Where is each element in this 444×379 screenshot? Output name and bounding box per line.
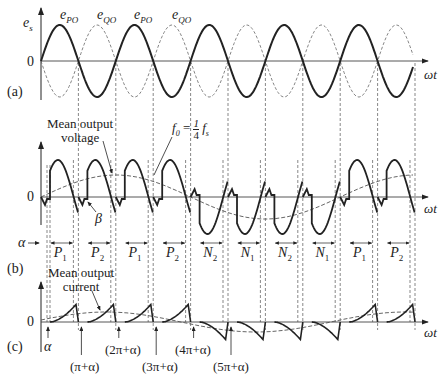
zero-label-c: 0 bbox=[27, 315, 34, 329]
alpha-marker-label: α bbox=[44, 340, 51, 354]
interval-label: P2 bbox=[390, 246, 403, 263]
interval-label: N1 bbox=[241, 246, 255, 263]
wave-label-epo-2: ePO bbox=[134, 8, 152, 25]
mean-voltage-pointer bbox=[103, 141, 112, 173]
interval-label: N2 bbox=[203, 246, 217, 263]
marker-3pi-alpha: (3π+α) bbox=[142, 360, 178, 373]
wave-label-eqo-2: eQO bbox=[172, 8, 191, 25]
mean-output-current-label: Mean outputcurrent bbox=[48, 266, 114, 293]
beta-label: β bbox=[95, 212, 102, 226]
wave-label-epo-1: ePO bbox=[60, 8, 78, 25]
marker-pi-alpha: (π+α) bbox=[70, 360, 99, 373]
marker-5pi-alpha: (5π+α) bbox=[213, 360, 249, 373]
wt-label-c: ωt bbox=[424, 326, 437, 339]
marker-4pi-alpha: (4π+α) bbox=[175, 343, 211, 356]
interval-label: P1 bbox=[129, 246, 142, 263]
zero-label-a: 0 bbox=[27, 55, 34, 69]
interval-label: P2 bbox=[91, 246, 104, 263]
f0-formula: f0 = 14 fs bbox=[172, 118, 209, 141]
interval-label: P1 bbox=[54, 246, 67, 263]
es-label: es bbox=[23, 16, 33, 33]
panel-tag-a: (a) bbox=[7, 85, 23, 99]
interval-label: P2 bbox=[166, 246, 179, 263]
wt-label-a: ωt bbox=[424, 68, 437, 81]
cycloconverter-waveform-figure bbox=[0, 0, 444, 379]
alpha-label-b: α bbox=[18, 236, 25, 250]
interval-label: P1 bbox=[353, 246, 366, 263]
zero-label-b: 0 bbox=[27, 190, 34, 204]
wave-label-eqo-1: eQO bbox=[97, 8, 116, 25]
panel-tag-c: (c) bbox=[7, 340, 23, 354]
wt-label-b: ωt bbox=[424, 202, 437, 215]
interval-label: N1 bbox=[316, 246, 330, 263]
marker-2pi-alpha: (2π+α) bbox=[105, 343, 141, 356]
interval-label: N2 bbox=[278, 246, 292, 263]
mean-output-voltage-label: Mean outputvoltage bbox=[47, 117, 113, 144]
panel-tag-b: (b) bbox=[7, 262, 23, 276]
